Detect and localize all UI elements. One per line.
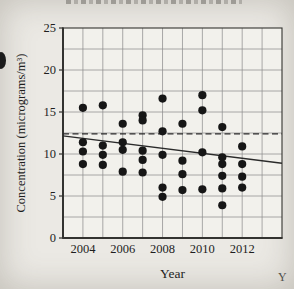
x-axis-title: Year — [63, 266, 282, 282]
data-point — [218, 201, 226, 209]
data-point — [178, 157, 186, 165]
x-tick-label: 2006 — [110, 242, 135, 256]
data-point — [238, 173, 246, 181]
data-point — [99, 142, 107, 150]
data-point — [139, 156, 147, 164]
data-point — [119, 138, 127, 146]
data-point — [79, 160, 87, 168]
data-point — [99, 101, 107, 109]
data-point — [218, 172, 226, 180]
data-point — [218, 160, 226, 168]
data-point — [238, 184, 246, 192]
data-point — [158, 184, 166, 192]
data-point — [79, 104, 87, 112]
data-point — [178, 186, 186, 194]
stray-text-fragment: Y — [278, 270, 287, 285]
data-point — [238, 160, 246, 168]
data-point — [218, 123, 226, 131]
y-tick-label: 25 — [44, 21, 57, 35]
data-point — [198, 91, 206, 99]
data-point — [99, 151, 107, 159]
scatterplot-figure: 051015202520042006200820102012 Concentra… — [0, 0, 294, 289]
y-tick-label: 10 — [44, 147, 57, 161]
x-tick-label: 2008 — [150, 242, 175, 256]
x-tick-label: 2012 — [230, 242, 255, 256]
data-point — [139, 116, 147, 124]
data-point — [178, 170, 186, 178]
data-point — [79, 138, 87, 146]
data-point — [198, 185, 206, 193]
data-point — [238, 142, 246, 150]
data-point — [158, 151, 166, 159]
data-point — [139, 147, 147, 155]
data-point — [158, 94, 166, 102]
x-tick-label: 2010 — [190, 242, 215, 256]
y-tick-label: 20 — [44, 63, 57, 77]
data-point — [158, 193, 166, 201]
data-point — [99, 161, 107, 169]
data-point — [79, 147, 87, 155]
y-tick-label: 5 — [50, 189, 56, 203]
data-point — [139, 168, 147, 176]
x-tick-label: 2004 — [70, 242, 96, 256]
y-tick-label: 15 — [44, 105, 57, 119]
data-point — [218, 184, 226, 192]
y-axis-title: Concentration (micrograms/m³) — [11, 30, 31, 236]
data-point — [158, 127, 166, 135]
data-point — [198, 148, 206, 156]
scatter-plot-canvas: 051015202520042006200820102012 — [0, 0, 294, 289]
data-point — [198, 106, 206, 114]
y-tick-label: 0 — [50, 231, 56, 245]
data-point — [119, 168, 127, 176]
data-point — [119, 146, 127, 154]
data-point — [119, 120, 127, 128]
data-point — [178, 120, 186, 128]
